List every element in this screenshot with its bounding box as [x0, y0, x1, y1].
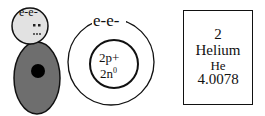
- figure-body: [14, 42, 60, 114]
- bohr-model: e-e- 2p+ 2n0: [68, 11, 154, 105]
- atomic-mass: 4.0078: [197, 72, 238, 88]
- shell-electron-label: e-e-: [93, 11, 120, 30]
- figure-mouth-dot: [33, 33, 35, 35]
- element-symbol: He: [210, 59, 225, 73]
- nucleus-protons: 2p+: [99, 50, 119, 65]
- figure-eye-right: [38, 24, 41, 27]
- element-name: Helium: [196, 43, 241, 59]
- atom-figure: e-e-: [12, 5, 60, 114]
- element-card: 2 Helium He 4.0078: [183, 10, 253, 105]
- figure-electron-label: e-e-: [19, 5, 38, 19]
- figure-core-dot: [31, 64, 45, 78]
- figure-mouth-dot: [36, 33, 38, 35]
- atomic-number: 2: [214, 27, 222, 43]
- figure-eye-left: [33, 24, 36, 27]
- figure-mouth-dot: [39, 33, 41, 35]
